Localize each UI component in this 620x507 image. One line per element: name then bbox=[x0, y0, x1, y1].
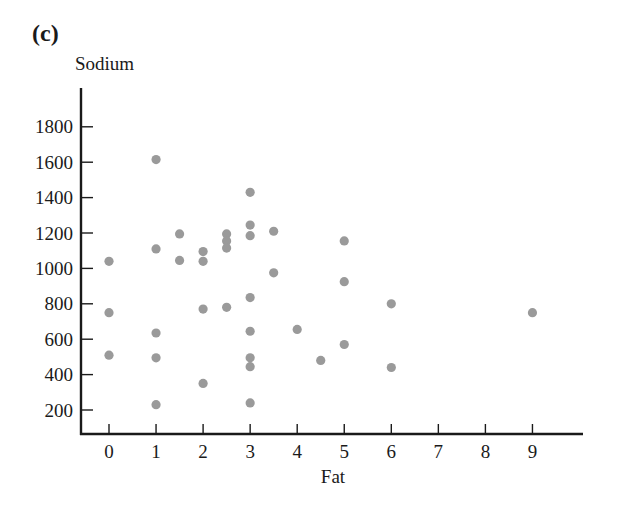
x-tick-label: 1 bbox=[151, 441, 161, 462]
data-point bbox=[175, 229, 184, 238]
data-point bbox=[387, 363, 396, 372]
data-point bbox=[199, 379, 208, 388]
y-tick-label: 1000 bbox=[35, 258, 73, 279]
x-axis-label: Fat bbox=[321, 466, 345, 488]
data-point bbox=[199, 247, 208, 256]
data-point bbox=[104, 351, 113, 360]
data-point bbox=[222, 243, 231, 252]
data-point bbox=[246, 188, 255, 197]
data-point bbox=[151, 155, 160, 164]
x-tick-label: 8 bbox=[481, 441, 491, 462]
data-point bbox=[199, 305, 208, 314]
data-point bbox=[246, 362, 255, 371]
data-point bbox=[151, 244, 160, 253]
y-tick-label: 1400 bbox=[35, 187, 73, 208]
data-point bbox=[175, 256, 184, 265]
y-tick-label: 800 bbox=[45, 293, 74, 314]
x-ticks: 0123456789 bbox=[104, 424, 537, 462]
data-point bbox=[199, 257, 208, 266]
y-tick-label: 600 bbox=[45, 329, 74, 350]
data-points bbox=[104, 155, 537, 409]
x-tick-label: 5 bbox=[340, 441, 350, 462]
data-point bbox=[340, 236, 349, 245]
data-point bbox=[293, 325, 302, 334]
x-tick-label: 6 bbox=[387, 441, 397, 462]
data-point bbox=[316, 356, 325, 365]
data-point bbox=[246, 353, 255, 362]
data-point bbox=[340, 277, 349, 286]
y-tick-label: 1600 bbox=[35, 152, 73, 173]
data-point bbox=[246, 327, 255, 336]
data-point bbox=[269, 227, 278, 236]
y-tick-label: 200 bbox=[45, 400, 74, 421]
panel-label: (c) bbox=[32, 20, 59, 47]
data-point bbox=[246, 231, 255, 240]
data-point bbox=[104, 308, 113, 317]
data-point bbox=[528, 308, 537, 317]
data-point bbox=[151, 328, 160, 337]
x-tick-label: 7 bbox=[434, 441, 444, 462]
data-point bbox=[222, 303, 231, 312]
data-point bbox=[387, 299, 396, 308]
y-tick-label: 400 bbox=[45, 364, 74, 385]
scatter-plot: 20040060080010001200140016001800 0123456… bbox=[0, 0, 620, 507]
x-tick-label: 3 bbox=[245, 441, 255, 462]
data-point bbox=[104, 257, 113, 266]
x-tick-label: 0 bbox=[104, 441, 114, 462]
axes: 20040060080010001200140016001800 0123456… bbox=[35, 88, 583, 462]
x-tick-label: 4 bbox=[292, 441, 302, 462]
data-point bbox=[246, 398, 255, 407]
y-axis-label: Sodium bbox=[75, 53, 134, 75]
y-tick-label: 1800 bbox=[35, 116, 73, 137]
data-point bbox=[269, 268, 278, 277]
data-point bbox=[151, 353, 160, 362]
data-point bbox=[246, 293, 255, 302]
x-tick-label: 2 bbox=[198, 441, 208, 462]
y-ticks: 20040060080010001200140016001800 bbox=[35, 116, 93, 420]
x-tick-label: 9 bbox=[528, 441, 538, 462]
y-tick-label: 1200 bbox=[35, 223, 73, 244]
data-point bbox=[340, 340, 349, 349]
scatter-figure: (c) Sodium Fat 2004006008001000120014001… bbox=[0, 0, 620, 507]
data-point bbox=[246, 220, 255, 229]
data-point bbox=[151, 400, 160, 409]
